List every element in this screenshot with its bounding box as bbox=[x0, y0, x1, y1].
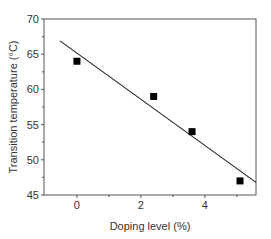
square-marker bbox=[189, 128, 196, 135]
x-tick-label: 4 bbox=[202, 199, 208, 211]
x-tick-label: 2 bbox=[138, 199, 144, 211]
y-tick-label: 50 bbox=[27, 154, 39, 166]
y-tick-label: 60 bbox=[27, 83, 39, 95]
y-tick-label: 45 bbox=[27, 189, 39, 201]
y-axis-ticks: 455055606570 bbox=[27, 13, 44, 201]
square-marker bbox=[150, 93, 157, 100]
plot-frame bbox=[44, 19, 256, 195]
y-tick-label: 65 bbox=[27, 48, 39, 60]
plot-border bbox=[44, 19, 256, 195]
fit-line-path bbox=[60, 41, 256, 183]
fit-line bbox=[60, 41, 256, 183]
x-axis-ticks: 024 bbox=[74, 195, 237, 211]
square-marker bbox=[73, 58, 80, 65]
y-axis-label: Transition temperature (°C) bbox=[7, 41, 19, 174]
data-markers bbox=[73, 58, 243, 185]
chart: 455055606570 024 Doping level (%) Transi… bbox=[0, 0, 271, 239]
y-tick-label: 70 bbox=[27, 13, 39, 25]
x-axis-label: Doping level (%) bbox=[110, 220, 191, 232]
square-marker bbox=[237, 177, 244, 184]
y-tick-label: 55 bbox=[27, 119, 39, 131]
x-tick-label: 0 bbox=[74, 199, 80, 211]
